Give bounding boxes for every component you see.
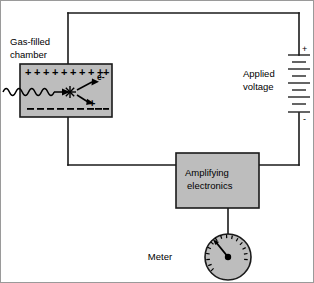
meter-tick: [206, 253, 210, 254]
battery-negative-terminal-label: -: [303, 114, 306, 124]
charge-plus: +: [34, 66, 40, 78]
amplifier-label-line1: Amplifying: [185, 167, 229, 178]
charge-minus: [57, 108, 64, 110]
meter-label: Meter: [148, 251, 172, 262]
ionization-starburst-icon: [64, 86, 76, 98]
ionization-chamber-diagram: + + + + + + + + + +: [0, 0, 314, 283]
amplifier-label-line2: electronics: [187, 180, 233, 191]
charge-plus: +: [52, 66, 58, 78]
ion-label: +: [89, 97, 95, 109]
chamber-label-line2: chamber: [10, 49, 47, 60]
meter-gauge: Meter: [148, 234, 251, 280]
applied-voltage-label-line1: Applied: [243, 68, 275, 79]
charge-minus: [27, 108, 34, 110]
charge-minus: [47, 108, 54, 110]
charge-minus: [95, 108, 102, 110]
battery-positive-terminal-label: +: [302, 44, 307, 54]
charge-plus: +: [88, 66, 94, 78]
chamber-caption: Gas-filled chamber: [10, 36, 50, 60]
meter-tick: [244, 254, 248, 255]
charge-minus: [103, 108, 109, 110]
meter-tick: [232, 236, 233, 240]
applied-voltage-caption: Applied voltage: [243, 68, 275, 92]
charge-plus: +: [61, 66, 67, 78]
applied-voltage-label-line2: voltage: [243, 81, 274, 92]
gas-filled-chamber: + + + + + + + + + +: [3, 64, 112, 117]
charge-plus: +: [25, 66, 31, 78]
chamber-bottom-charges: [27, 108, 109, 110]
chamber-label-line1: Gas-filled: [10, 36, 50, 47]
diagram-canvas: + + + + + + + + + +: [0, 0, 314, 283]
electron-label: e-: [97, 72, 105, 82]
charge-plus: +: [79, 66, 85, 78]
meter-pivot: [225, 254, 231, 260]
charge-minus: [67, 108, 74, 110]
charge-plus: +: [70, 66, 76, 78]
charge-minus: [37, 108, 44, 110]
amplifying-electronics: Amplifying electronics: [176, 153, 259, 208]
charge-minus: [77, 108, 84, 110]
battery-symbol: + -: [288, 44, 310, 124]
charge-plus: +: [43, 66, 49, 78]
